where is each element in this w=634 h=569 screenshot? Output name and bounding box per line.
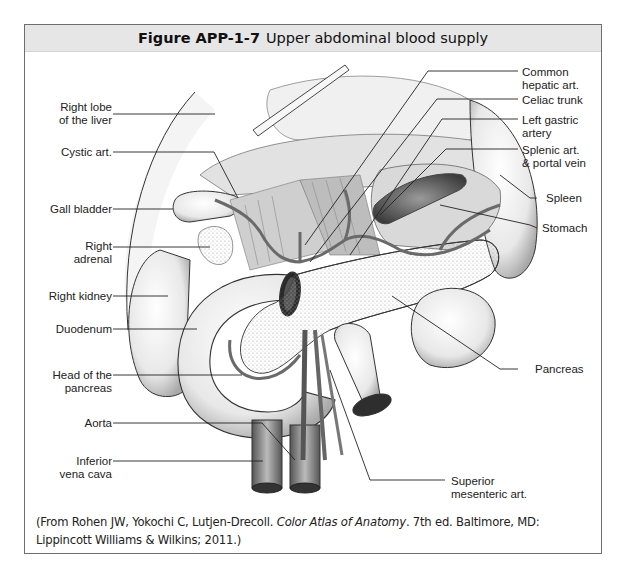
label-cystic-art: Cystic art. [61,146,112,159]
label-stomach: Stomach [542,222,587,235]
label-line: Right [74,240,112,253]
label-right-kidney: Right kidney [49,290,112,303]
label-celiac-trunk: Celiac trunk [522,94,583,107]
label-line: Aorta [85,417,113,430]
label-right-adrenal: Right adrenal [74,240,112,265]
label-inferior-vena-cava: Inferior vena cava [60,455,112,480]
caption-prefix: (From Rohen JW, Yokochi C, Lutjen-Drecol… [36,515,277,529]
label-pancreas: Pancreas [535,363,584,376]
label-duodenum: Duodenum [56,323,112,336]
label-line: vena cava [60,468,112,481]
label-line: Inferior [60,455,112,468]
label-line: Splenic art. [522,144,586,157]
label-line: adrenal [74,253,112,266]
label-line: hepatic art. [522,79,579,92]
label-superior-mesenteric-art: Superior mesenteric art. [451,475,527,500]
label-line: Celiac trunk [522,94,583,107]
label-line: Head of the [53,369,112,382]
label-right-lobe-liver: Right lobe of the liver [59,101,112,126]
label-line: Common [522,66,579,79]
label-line: pancreas [53,382,112,395]
caption-book-title: Color Atlas of Anatomy [277,515,406,529]
label-line: Cystic art. [61,146,112,159]
label-line: artery [522,127,578,140]
label-line: Stomach [542,222,587,235]
label-line: Right kidney [49,290,112,303]
label-line: Superior [451,475,527,488]
label-line: Duodenum [56,323,112,336]
colic-flexure [411,288,495,367]
label-line: Right lobe [59,101,112,114]
label-line: of the liver [59,114,112,127]
label-line: Pancreas [535,363,584,376]
label-common-hepatic-art: Common hepatic art. [522,66,579,91]
label-line: mesenteric art. [451,488,527,501]
label-line: & portal vein [522,157,586,170]
label-line: Spleen [546,192,582,205]
label-line: Gall bladder [50,203,112,216]
label-head-of-pancreas: Head of the pancreas [53,369,112,394]
label-line: Left gastric [522,114,578,127]
figure-caption: (From Rohen JW, Yokochi C, Lutjen-Drecol… [36,513,596,549]
label-splenic-art-portal-vein: Splenic art. & portal vein [522,144,586,169]
label-spleen: Spleen [546,192,582,205]
label-left-gastric-artery: Left gastric artery [522,114,578,139]
right-adrenal [198,226,233,264]
label-aorta: Aorta [85,417,113,430]
label-gall-bladder: Gall bladder [50,203,112,216]
